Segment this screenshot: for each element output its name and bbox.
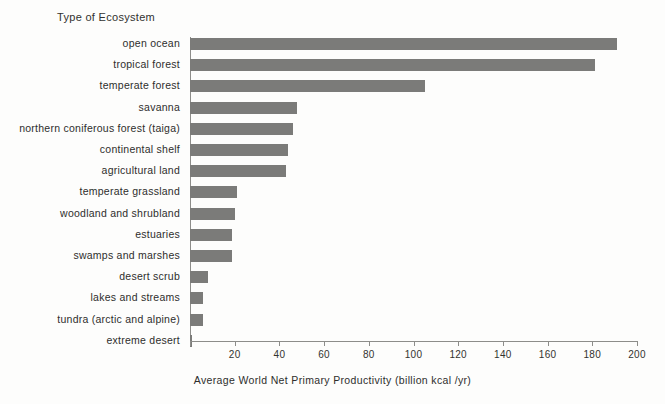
value-axis-tick-label: 60 (318, 349, 330, 360)
category-label: agricultural land (102, 164, 180, 176)
bar (190, 271, 208, 283)
value-axis-tick (324, 341, 325, 346)
value-axis-tick-label: 200 (628, 349, 646, 360)
bar (190, 80, 425, 92)
value-axis-tick (503, 341, 504, 346)
bar (190, 102, 297, 114)
category-axis-title: Type of Ecosystem (57, 11, 155, 23)
category-label: continental shelf (100, 143, 180, 155)
category-label: estuaries (135, 228, 180, 240)
value-axis-tick-label: 120 (449, 349, 467, 360)
category-label: extreme desert (106, 334, 180, 346)
value-axis-tick (190, 341, 191, 346)
category-label: desert scrub (119, 270, 180, 282)
category-label: temperate grassland (80, 185, 180, 197)
category-label: woodland and shrubland (60, 207, 180, 219)
category-label: savanna (139, 101, 180, 113)
bar-chart: Type of Ecosystem open oceantropical for… (0, 0, 665, 404)
bar (190, 250, 232, 262)
category-label: open ocean (123, 37, 180, 49)
category-label: northern coniferous forest (taiga) (19, 122, 180, 134)
value-axis-tick-label: 180 (584, 349, 602, 360)
value-axis-tick (592, 341, 593, 346)
value-axis-ticks (190, 341, 640, 347)
category-label-list: open oceantropical foresttemperate fores… (0, 36, 180, 337)
value-axis-tick (548, 341, 549, 346)
category-label: swamps and marshes (73, 249, 180, 261)
bar (190, 292, 203, 304)
value-axis-tick-label: 160 (539, 349, 557, 360)
value-axis-title: Average World Net Primary Productivity (… (0, 374, 665, 386)
value-axis-tick-label: 140 (494, 349, 512, 360)
value-axis-tick-label: 40 (274, 349, 286, 360)
bar (190, 59, 595, 71)
category-label: lakes and streams (91, 291, 180, 303)
bar (190, 208, 235, 220)
value-axis-tick-label: 20 (229, 349, 241, 360)
bar (190, 165, 286, 177)
value-axis-tick (235, 341, 236, 346)
bar (190, 186, 237, 198)
value-axis-tick-label: 100 (405, 349, 423, 360)
value-axis-tick (414, 341, 415, 346)
value-axis-tick (637, 341, 638, 346)
plot-area (190, 36, 637, 337)
value-axis-tick (279, 341, 280, 346)
category-label: temperate forest (100, 79, 180, 91)
value-axis-tick (369, 341, 370, 346)
value-axis-tick (458, 341, 459, 346)
category-label: tropical forest (113, 58, 180, 70)
bar (190, 314, 203, 326)
bar (190, 144, 288, 156)
value-axis-tick-label: 80 (363, 349, 375, 360)
category-label: tundra (arctic and alpine) (57, 313, 180, 325)
bar (190, 123, 293, 135)
bar (190, 229, 232, 241)
value-axis-tick-labels: 20406080100120140160180200 (190, 349, 640, 363)
bar (190, 38, 617, 50)
